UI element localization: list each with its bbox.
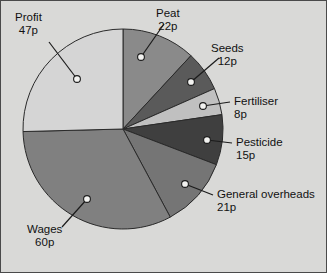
label-peat-value: 22p xyxy=(156,20,180,33)
label-wages-name: Wages xyxy=(27,223,62,235)
slice-marker-seeds xyxy=(188,79,195,86)
label-pesticide: Pesticide 15p xyxy=(236,136,283,162)
slice-marker-pesticide xyxy=(204,137,211,144)
pie-chart-figure: Peat 22p Seeds 12p Fertiliser 8p Pestici… xyxy=(0,0,327,273)
label-peat-name: Peat xyxy=(156,7,180,19)
label-general-overheads-name: General overheads xyxy=(217,188,315,200)
label-seeds: Seeds 12p xyxy=(211,42,244,68)
label-peat: Peat 22p xyxy=(156,7,180,33)
label-fertiliser-name: Fertiliser xyxy=(234,95,278,107)
slice-marker-wages xyxy=(84,196,91,203)
pie-slices-group xyxy=(23,29,223,229)
label-pesticide-name: Pesticide xyxy=(236,136,283,148)
label-fertiliser: Fertiliser 8p xyxy=(234,95,278,121)
label-pesticide-value: 15p xyxy=(236,149,283,162)
slice-marker-general-overheads xyxy=(182,181,189,188)
label-profit-name: Profit xyxy=(15,11,42,23)
slice-marker-profit xyxy=(74,76,81,83)
pie-slice-profit xyxy=(23,29,123,132)
label-general-overheads-value: 21p xyxy=(217,201,315,214)
label-seeds-name: Seeds xyxy=(211,42,244,54)
label-general-overheads: General overheads 21p xyxy=(217,188,315,214)
label-profit: Profit 47p xyxy=(15,11,42,37)
label-wages: Wages 60p xyxy=(27,223,62,249)
slice-marker-peat xyxy=(138,54,145,61)
slice-marker-fertiliser xyxy=(200,103,207,110)
label-fertiliser-value: 8p xyxy=(234,108,278,121)
label-wages-value: 60p xyxy=(27,236,62,249)
label-seeds-value: 12p xyxy=(211,55,244,68)
label-profit-value: 47p xyxy=(15,24,42,37)
